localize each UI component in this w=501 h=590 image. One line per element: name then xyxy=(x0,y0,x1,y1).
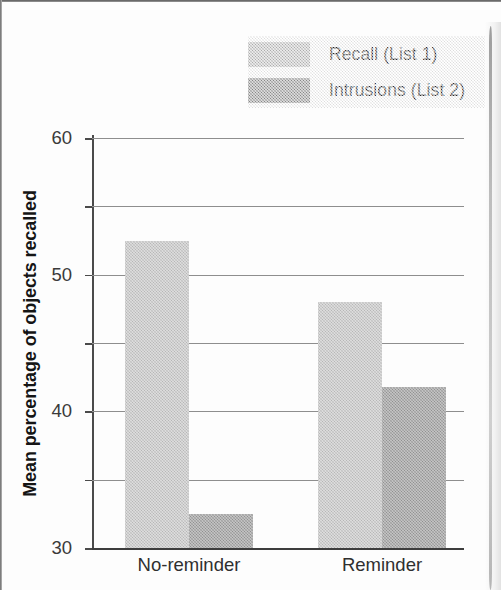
x-category-label: No-reminder xyxy=(138,554,241,576)
bar xyxy=(382,387,446,548)
bar-texture xyxy=(318,302,382,548)
y-tick-label: 40 xyxy=(51,400,72,422)
x-category-label: Reminder xyxy=(342,554,422,576)
y-tick-mark: 0 xyxy=(85,548,92,550)
legend-swatch-intrusions xyxy=(248,78,310,103)
y-tick-label: 30 xyxy=(51,537,72,559)
bar-texture xyxy=(382,387,446,548)
page-curl-line xyxy=(489,26,492,590)
page-edge-top xyxy=(0,0,501,2)
legend-label-intrusions: Intrusions (List 2) xyxy=(329,80,465,101)
bar xyxy=(125,241,189,549)
legend-item-recall: Recall (List 1) xyxy=(248,36,498,72)
chart-legend: Recall (List 1) Intrusions (List 2) xyxy=(248,36,498,108)
y-tick-mark: 60 xyxy=(85,138,92,140)
y-tick-mark: 20 xyxy=(85,411,92,413)
page-edge-left xyxy=(0,0,2,590)
bar xyxy=(189,514,253,548)
plot-area: 0102030405060 No-reminderReminder xyxy=(92,138,464,548)
gridline xyxy=(92,138,464,139)
bar-texture xyxy=(125,241,189,549)
legend-swatch-recall xyxy=(248,42,310,67)
y-tick-mark: 40 xyxy=(85,275,92,277)
y-axis-line xyxy=(92,135,94,548)
legend-item-intrusions: Intrusions (List 2) xyxy=(248,72,498,108)
bar-texture xyxy=(189,514,253,548)
y-tick-mark: 50 xyxy=(85,206,92,208)
legend-label-recall: Recall (List 1) xyxy=(329,44,437,65)
y-tick-mark: 30 xyxy=(85,343,92,345)
bar-chart-figure: Recall (List 1) Intrusions (List 2) Mean… xyxy=(0,0,501,590)
y-tick-mark: 10 xyxy=(85,480,92,482)
y-tick-label: 60 xyxy=(51,127,72,149)
bar xyxy=(318,302,382,548)
y-axis-title-text: Mean percentage of objects recalled xyxy=(20,190,41,497)
y-axis-title: Mean percentage of objects recalled xyxy=(16,138,44,548)
gridline xyxy=(92,206,464,207)
y-tick-label: 50 xyxy=(51,264,72,286)
